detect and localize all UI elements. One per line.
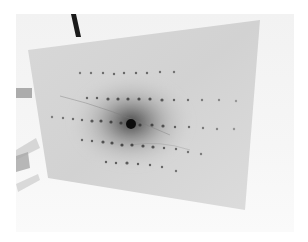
diffraction-spot-middle [216, 128, 218, 130]
diffraction-spot-top [102, 72, 104, 74]
diffraction-spot-top [159, 71, 161, 73]
diffraction-spot-upper [201, 99, 203, 101]
diffraction-spot-lower [91, 140, 93, 142]
diffraction-spot-middle [72, 118, 74, 120]
diffraction-spot-lower [151, 145, 154, 148]
diffraction-spot-bottom [161, 166, 163, 168]
diffraction-spot-upper [187, 99, 189, 101]
support-rod [71, 14, 81, 37]
diffraction-spot-middle [150, 123, 153, 126]
diffraction-spot-lower [141, 144, 144, 147]
diffraction-spot-middle [81, 119, 83, 121]
diffraction-spot-upper [126, 97, 129, 100]
beam-center-spot [126, 119, 136, 129]
diffraction-spot-upper [148, 97, 151, 100]
diffraction-spot-bottom [137, 163, 139, 165]
diffraction-spot-lower [110, 141, 113, 144]
diffraction-spot-middle [90, 119, 93, 122]
diffraction-spot-middle [138, 123, 141, 126]
diffraction-spot-top [146, 72, 148, 74]
diffraction-spot-top [123, 72, 125, 74]
diffraction-spot-middle [109, 120, 112, 123]
diffraction-spot-middle [51, 116, 53, 118]
diffraction-spot-lower [130, 143, 133, 146]
diffraction-spot-upper [218, 99, 220, 101]
diffraction-spot-bottom [149, 164, 151, 166]
diffraction-spot-middle [202, 127, 204, 129]
diffraction-spot-upper [160, 98, 163, 101]
diffraction-spot-middle [233, 128, 235, 130]
diffraction-spot-bottom [115, 162, 117, 164]
diffraction-spot-middle [62, 117, 64, 119]
diffraction-spot-top [79, 72, 81, 74]
diffraction-spot-bottom [105, 161, 107, 163]
diffraction-spot-lower [163, 147, 165, 149]
diffraction-spot-top [90, 72, 92, 74]
diffraction-scene [0, 0, 308, 242]
diffraction-spot-lower [200, 153, 202, 155]
diffraction-spot-lower [175, 148, 177, 150]
diffraction-spot-middle [161, 124, 164, 127]
diffraction-spot-upper [235, 100, 237, 102]
diffraction-spot-bottom [125, 161, 128, 164]
diffraction-spot-bottom [175, 170, 177, 172]
diffraction-spot-middle [99, 119, 102, 122]
diffraction-spot-lower [120, 143, 123, 146]
diffraction-spot-upper [106, 97, 109, 100]
diffraction-spot-upper [86, 97, 88, 99]
diffraction-spot-top [135, 72, 137, 74]
diffraction-spot-middle [174, 126, 176, 128]
diffraction-spot-upper [116, 97, 119, 100]
diffraction-photo [0, 0, 308, 242]
diffraction-spot-lower [81, 139, 83, 141]
diffraction-spot-top [113, 73, 115, 75]
diffraction-spot-lower [187, 151, 189, 153]
diffraction-spot-lower [101, 140, 104, 143]
diffraction-spot-upper [173, 99, 175, 101]
diffraction-spot-upper [137, 97, 140, 100]
diffraction-spot-upper [96, 97, 98, 99]
diffraction-spot-middle [119, 121, 122, 124]
diffraction-spot-top [173, 71, 175, 73]
diffraction-spot-middle [188, 126, 190, 128]
